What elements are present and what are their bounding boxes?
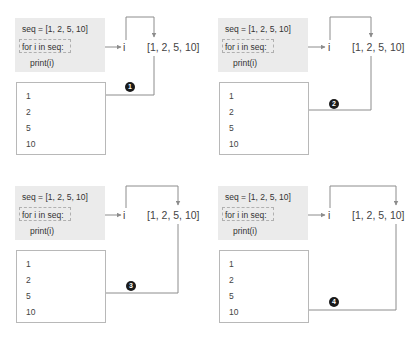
output-box: 1 2 5 10	[16, 250, 106, 323]
code-block: seq = [1, 2, 5, 10] for i in seq: print(…	[15, 186, 105, 240]
step-badge: 1	[125, 82, 135, 92]
loop-step-panel-2: seq = [1, 2, 5, 10] for i in seq: print(…	[203, 0, 412, 170]
code-line-for: for i in seq:	[225, 42, 267, 52]
output-box: 1 2 5 10	[219, 250, 309, 323]
output-item: 2	[26, 275, 31, 285]
loop-variable: i	[123, 41, 125, 53]
output-item: 1	[26, 91, 31, 101]
sequence-list: [1, 2, 5, 10]	[352, 209, 405, 221]
code-block: seq = [1, 2, 5, 10] for i in seq: print(…	[218, 18, 308, 72]
code-block: seq = [1, 2, 5, 10] for i in seq: print(…	[218, 186, 308, 240]
loop-variable: i	[328, 209, 330, 221]
code-block: seq = [1, 2, 5, 10] for i in seq: print(…	[15, 18, 105, 72]
output-item: 2	[229, 275, 234, 285]
sequence-list: [1, 2, 5, 10]	[352, 41, 405, 53]
output-item: 5	[26, 291, 31, 301]
code-line-assign: seq = [1, 2, 5, 10]	[225, 192, 291, 202]
code-line-assign: seq = [1, 2, 5, 10]	[22, 192, 88, 202]
output-item: 10	[26, 139, 35, 149]
loop-step-panel-3: seq = [1, 2, 5, 10] for i in seq: print(…	[0, 168, 209, 338]
output-box: 1 2 5 10	[219, 82, 309, 155]
loop-step-panel-1: seq = [1, 2, 5, 10] for i in seq: print(…	[0, 0, 209, 170]
sequence-list: [1, 2, 5, 10]	[147, 41, 200, 53]
output-item: 1	[26, 259, 31, 269]
step-badge: 4	[329, 297, 339, 307]
output-item: 10	[229, 307, 238, 317]
code-line-assign: seq = [1, 2, 5, 10]	[225, 24, 291, 34]
code-line-for: for i in seq:	[22, 210, 64, 220]
code-line-print: print(i)	[233, 58, 257, 68]
output-item: 10	[26, 307, 35, 317]
step-badge: 2	[329, 99, 339, 109]
output-item: 5	[229, 291, 234, 301]
loop-variable: i	[328, 41, 330, 53]
output-item: 2	[229, 107, 234, 117]
code-line-print: print(i)	[30, 226, 54, 236]
output-item: 5	[229, 123, 234, 133]
sequence-list: [1, 2, 5, 10]	[147, 209, 200, 221]
output-item: 5	[26, 123, 31, 133]
step-badge: 3	[126, 281, 136, 291]
loop-step-panel-4: seq = [1, 2, 5, 10] for i in seq: print(…	[203, 168, 412, 338]
code-line-assign: seq = [1, 2, 5, 10]	[22, 24, 88, 34]
output-item: 2	[26, 107, 31, 117]
output-item: 10	[229, 139, 238, 149]
loop-variable: i	[123, 209, 125, 221]
output-item: 1	[229, 259, 234, 269]
output-box: 1 2 5 10	[16, 82, 106, 155]
code-line-for: for i in seq:	[225, 210, 267, 220]
output-item: 1	[229, 91, 234, 101]
code-line-print: print(i)	[30, 58, 54, 68]
code-line-print: print(i)	[233, 226, 257, 236]
code-line-for: for i in seq:	[22, 42, 64, 52]
